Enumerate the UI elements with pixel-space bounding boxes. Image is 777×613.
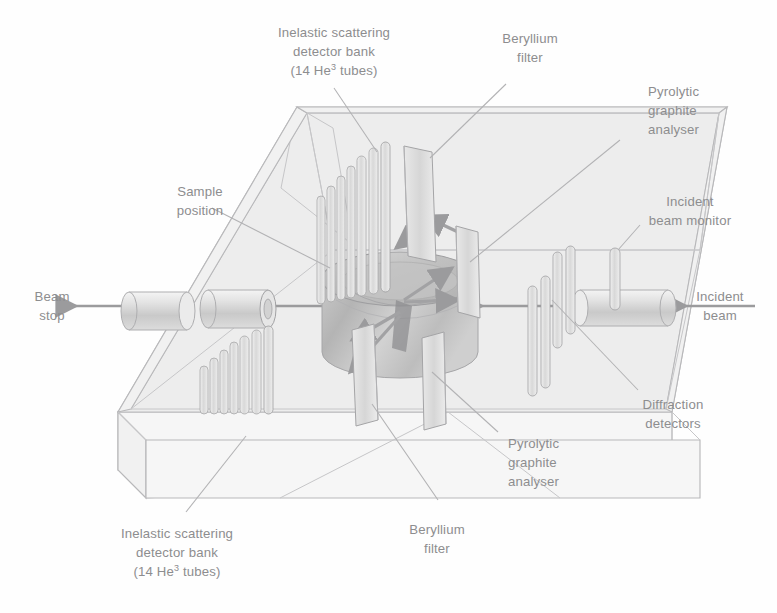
pyrolytic-graphite-analyser-upper: [456, 226, 480, 318]
label-pyrolytic-analyser-top: Pyrolytic graphite analyser: [648, 84, 700, 137]
label-beryllium-filter-bottom: Beryllium filter: [409, 522, 465, 556]
label-line: graphite: [508, 455, 557, 470]
label-pyrolytic-analyser-bottom: Pyrolytic graphite analyser: [508, 436, 560, 489]
label-line: beam monitor: [649, 213, 732, 228]
beam-stop-cylinder-inner: [200, 290, 276, 328]
spectrometer-diagram: Inelastic scattering detector bank (14 H…: [0, 0, 777, 613]
label-line: Pyrolytic: [648, 84, 699, 99]
label-line: position: [177, 203, 224, 218]
incident-beam-tube: [572, 290, 676, 326]
label-line: (14 He3 tubes): [133, 563, 220, 579]
figure-container: Inelastic scattering detector bank (14 H…: [0, 0, 777, 613]
label-line: Inelastic scattering: [121, 526, 233, 541]
label-line: Beryllium: [502, 31, 558, 46]
label-line: Diffraction: [643, 397, 704, 412]
label-line: Beam: [34, 289, 69, 304]
label-line: Incident: [696, 289, 744, 304]
label-line: stop: [39, 308, 65, 323]
beryllium-filter-upper: [404, 146, 436, 262]
label-sample-position: Sample position: [177, 184, 224, 218]
label-line: graphite: [648, 103, 697, 118]
label-line: filter: [517, 50, 543, 65]
label-beryllium-filter-top: Beryllium filter: [502, 31, 558, 65]
label-line: Sample: [177, 184, 223, 199]
label-line: beam: [703, 308, 737, 323]
incident-beam-monitor-tube: [610, 248, 620, 310]
label-inelastic-detector-bank-top: Inelastic scattering detector bank (14 H…: [278, 25, 390, 78]
label-line: (14 He3 tubes): [290, 62, 377, 78]
label-line: Inelastic scattering: [278, 25, 390, 40]
label-line: Pyrolytic: [508, 436, 559, 451]
label-line: detectors: [645, 416, 701, 431]
label-line: Incident: [666, 194, 714, 209]
beam-stop-cylinder-outer: [121, 292, 195, 330]
label-line: detector bank: [293, 44, 375, 59]
beryllium-filter-lower: [352, 324, 378, 426]
label-line: Beryllium: [409, 522, 465, 537]
label-line: detector bank: [136, 545, 218, 560]
label-inelastic-detector-bank-bottom: Inelastic scattering detector bank (14 H…: [121, 526, 233, 579]
label-line: analyser: [508, 474, 560, 489]
label-line: analyser: [648, 122, 700, 137]
label-line: filter: [424, 541, 450, 556]
